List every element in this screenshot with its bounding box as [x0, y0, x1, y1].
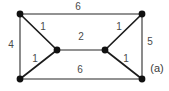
- graph-edge-lower-left-diagonal: [20, 50, 57, 79]
- edge-weight-right: 5: [147, 37, 153, 47]
- edge-weight-upper-right-diagonal: 1: [116, 22, 122, 32]
- graph-vertex-middle-left: [54, 47, 61, 54]
- weighted-graph-figure: 645611112 (a): [0, 0, 169, 91]
- graph-edge-upper-left-diagonal: [20, 14, 57, 50]
- graph-vertex-bottom-right: [139, 76, 146, 83]
- edge-weight-upper-left-diagonal: 1: [40, 22, 46, 32]
- edge-weight-top: 6: [75, 2, 81, 12]
- graph-vertex-bottom-left: [17, 76, 24, 83]
- edge-weight-left: 4: [8, 40, 14, 50]
- graph-vertex-middle-right: [102, 47, 109, 54]
- graph-vertex-top-left: [17, 11, 24, 18]
- graph-vertex-top-right: [139, 11, 146, 18]
- edge-weight-lower-right-diagonal: 1: [123, 54, 129, 64]
- figure-caption: (a): [150, 63, 163, 74]
- graph-edge-upper-right-diagonal: [105, 14, 142, 50]
- edge-weight-lower-left-diagonal: 1: [32, 54, 38, 64]
- edge-weight-bottom: 6: [77, 65, 83, 75]
- edge-weight-middle: 2: [78, 32, 84, 42]
- graph-canvas: [0, 0, 169, 91]
